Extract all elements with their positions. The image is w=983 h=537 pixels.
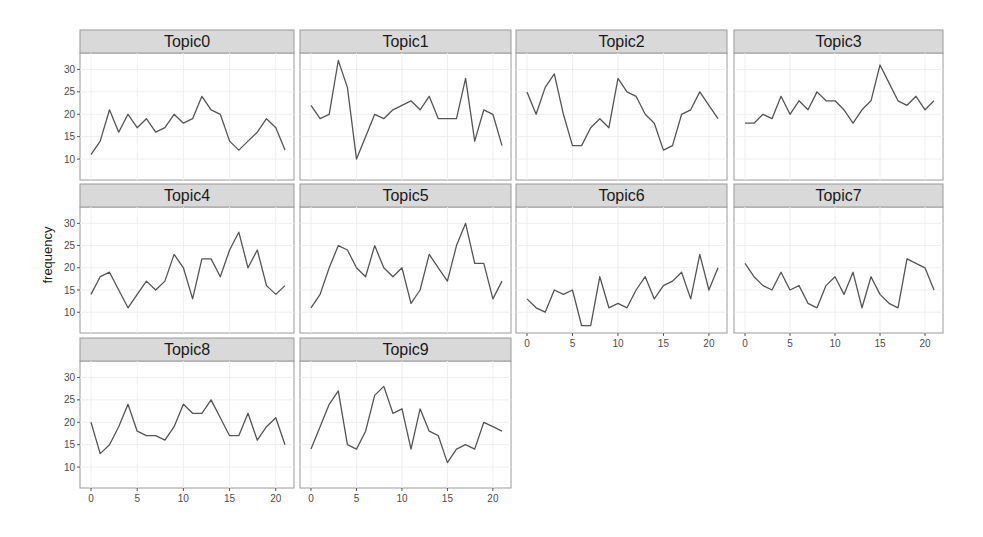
facet-strip-label: Topic4 — [164, 187, 210, 204]
facet-panel-topic7: Topic705101520 — [734, 184, 943, 349]
x-tick-label: 20 — [703, 338, 715, 349]
x-tick-label: 5 — [787, 338, 793, 349]
x-tick-label: 15 — [442, 493, 454, 504]
y-tick-label: 10 — [64, 462, 76, 473]
y-tick-label: 10 — [64, 154, 76, 165]
facet-panel-topic4: Topic41015202530 — [64, 184, 294, 333]
y-tick-label: 15 — [64, 285, 76, 296]
facet-panel-topic3: Topic3 — [734, 30, 943, 180]
panel-background — [734, 207, 943, 333]
y-tick-label: 20 — [64, 262, 76, 273]
y-tick-label: 15 — [64, 439, 76, 450]
x-tick-label: 15 — [224, 493, 236, 504]
y-tick-label: 20 — [64, 417, 76, 428]
facet-strip-label: Topic7 — [815, 187, 861, 204]
y-tick-label: 30 — [64, 218, 76, 229]
x-tick-label: 20 — [919, 338, 931, 349]
panel-background — [80, 361, 294, 488]
x-tick-label: 10 — [829, 338, 841, 349]
y-tick-label: 15 — [64, 131, 76, 142]
x-tick-label: 15 — [874, 338, 886, 349]
facet-strip-label: Topic9 — [382, 341, 428, 358]
x-tick-label: 0 — [742, 338, 748, 349]
x-tick-label: 0 — [88, 493, 94, 504]
x-tick-label: 10 — [612, 338, 624, 349]
facet-strip-label: Topic3 — [815, 33, 861, 50]
y-tick-label: 25 — [64, 394, 76, 405]
x-tick-label: 0 — [308, 493, 314, 504]
facet-panel-topic8: Topic8101520253005101520 — [64, 338, 294, 504]
facet-strip-label: Topic5 — [382, 187, 428, 204]
x-tick-label: 5 — [570, 338, 576, 349]
facet-panels: Topic01015202530Topic1Topic2Topic3Topic4… — [64, 30, 943, 504]
facet-strip-label: Topic6 — [598, 187, 644, 204]
faceted-line-chart: frequency Topic01015202530Topic1Topic2To… — [0, 0, 983, 537]
panel-background — [516, 207, 727, 333]
panel-background — [300, 207, 511, 333]
facet-panel-topic6: Topic605101520 — [516, 184, 727, 349]
y-axis-label: frequency — [40, 226, 55, 284]
facet-strip-label: Topic0 — [164, 33, 210, 50]
panel-background — [300, 53, 511, 180]
facet-panel-topic0: Topic01015202530 — [64, 30, 294, 180]
x-tick-label: 20 — [270, 493, 282, 504]
x-tick-label: 5 — [134, 493, 140, 504]
y-tick-label: 25 — [64, 240, 76, 251]
facet-panel-topic2: Topic2 — [516, 30, 727, 180]
facet-panel-topic1: Topic1 — [300, 30, 511, 180]
y-tick-label: 10 — [64, 307, 76, 318]
y-tick-label: 25 — [64, 86, 76, 97]
facet-strip-label: Topic2 — [598, 33, 644, 50]
x-tick-label: 15 — [658, 338, 670, 349]
x-tick-label: 5 — [354, 493, 360, 504]
facet-strip-label: Topic1 — [382, 33, 428, 50]
x-tick-label: 10 — [178, 493, 190, 504]
facet-panel-topic9: Topic905101520 — [300, 338, 511, 504]
x-tick-label: 0 — [524, 338, 530, 349]
x-tick-label: 10 — [396, 493, 408, 504]
facet-panel-topic5: Topic5 — [300, 184, 511, 333]
x-tick-label: 20 — [487, 493, 499, 504]
y-tick-label: 30 — [64, 64, 76, 75]
y-tick-label: 20 — [64, 109, 76, 120]
facet-strip-label: Topic8 — [164, 341, 210, 358]
y-tick-label: 30 — [64, 372, 76, 383]
panel-background — [734, 53, 943, 180]
panel-background — [516, 53, 727, 180]
